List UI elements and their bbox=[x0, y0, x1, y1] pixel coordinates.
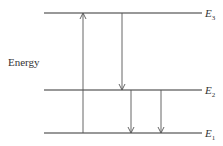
level-e2-label: E2 bbox=[204, 84, 216, 99]
energy-level-diagram: Energy E3 E2 E1 bbox=[0, 0, 223, 146]
level-e3-label: E3 bbox=[204, 7, 216, 22]
level-e1-label: E1 bbox=[204, 127, 216, 142]
transition-e2-e1-down-arrow-a bbox=[128, 90, 134, 133]
transition-e3-e2-down-arrow bbox=[119, 13, 125, 90]
transition-e2-e1-down-arrow-b bbox=[158, 90, 164, 133]
energy-axis-label: Energy bbox=[8, 56, 40, 68]
transition-e1-e3-up-arrow bbox=[80, 13, 86, 133]
